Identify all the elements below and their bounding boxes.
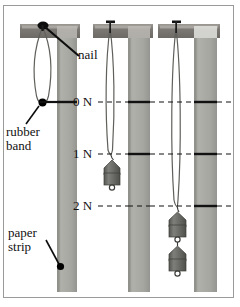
setup-3-rubber-band <box>172 28 181 207</box>
setup-1-rubber-band <box>34 27 51 103</box>
scale-label-0n: 0 N <box>73 95 92 109</box>
callout-leader-rubber-band <box>26 106 39 124</box>
diagram-graphics <box>0 0 240 307</box>
label-paper-strip: paper strip <box>8 226 64 253</box>
setup-2-weight-1 <box>104 154 120 190</box>
label-paper-strip-line1: paper <box>8 226 64 240</box>
scale-label-1n: 1 N <box>73 147 92 161</box>
label-paper-strip-line2: strip <box>8 240 64 254</box>
scale-label-2n: 2 N <box>73 199 92 213</box>
setup-3-weight-2 <box>169 242 186 276</box>
setup-2-wood-block <box>93 24 153 38</box>
physics-diagram: nail rubber band paper strip 0 N 1 N 2 N <box>0 0 240 307</box>
setup-3-wood-block <box>158 24 220 38</box>
label-rubber-band: rubber band <box>6 125 68 152</box>
label-rubber-band-line1: rubber <box>6 125 68 139</box>
setup-2-rubber-band <box>106 28 114 155</box>
label-rubber-band-line2: band <box>6 139 68 153</box>
setup-2-paper-strip <box>128 30 150 292</box>
setup-3-weight-1 <box>169 206 186 242</box>
label-nail: nail <box>78 48 98 62</box>
setup-3-paper-strip <box>194 30 217 292</box>
